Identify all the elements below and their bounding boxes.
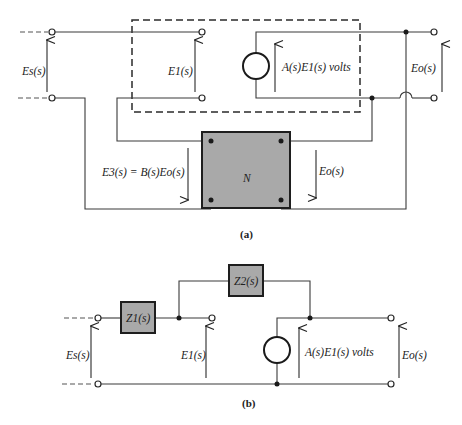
eo-label: Eo(s) — [410, 62, 436, 75]
network-eo-label: Eo(s) — [318, 165, 344, 178]
figure-a-caption: (a) — [240, 228, 253, 241]
figure-b: Es(s) Z1(s) Z2(s) E1(s) A(s)E1(s) volts … — [62, 265, 427, 410]
feedback-voltage-label: E3(s) = B(s)Eo(s) — [101, 166, 185, 179]
terminal-eo-bottom — [431, 95, 437, 101]
network-n-label: N — [242, 172, 252, 184]
terminal-es-top-b — [95, 315, 101, 321]
dependent-source-label: A(s)E1(s) volts — [281, 61, 351, 74]
terminal-eo-bottom-b — [388, 381, 394, 387]
es-label: Es(s) — [21, 65, 46, 78]
junction-dot — [177, 316, 182, 321]
dependent-voltage-source-b — [264, 337, 290, 363]
n-top-right-wire — [281, 98, 372, 141]
junction-dot — [275, 382, 280, 387]
circuit-diagram: Es(s) E1(s) A(s)E1(s) volts Eo(s) E3(s) … — [0, 0, 462, 425]
terminal-e1-b — [209, 315, 215, 321]
e1-label: E1(s) — [167, 65, 193, 78]
terminal-es-bottom-b — [95, 381, 101, 387]
z2-label: Z2(s) — [234, 275, 258, 288]
n-port-dot — [209, 198, 214, 203]
n-bottom-right-wire — [281, 32, 406, 209]
e1-label-b: E1(s) — [180, 349, 206, 362]
network-n-box — [202, 132, 290, 208]
terminal-es-bottom — [49, 95, 55, 101]
wire-z2-to-output — [263, 281, 310, 318]
z1-label: Z1(s) — [126, 312, 150, 325]
terminal-e1-top — [199, 29, 205, 35]
terminal-e1-bottom — [199, 95, 205, 101]
terminal-eo-top — [431, 29, 437, 35]
output-top-wire-b — [277, 318, 388, 337]
figure-b-caption: (b) — [242, 397, 256, 410]
source-bottom-wire — [256, 79, 400, 98]
junction-dot — [370, 96, 375, 101]
terminal-es-top — [49, 29, 55, 35]
source-top-wire — [256, 32, 431, 53]
wire-to-z2 — [179, 281, 229, 318]
n-port-dot — [279, 198, 284, 203]
es-label-b: Es(s) — [65, 349, 90, 362]
terminal-eo-top-b — [388, 315, 394, 321]
junction-dot — [404, 30, 409, 35]
junction-dot — [308, 316, 313, 321]
dependent-voltage-source — [243, 53, 269, 79]
dependent-source-label-b: A(s)E1(s) volts — [304, 346, 374, 359]
n-port-dot — [279, 139, 284, 144]
feedback-input-wire — [117, 98, 211, 141]
figure-a: Es(s) E1(s) A(s)E1(s) volts Eo(s) E3(s) … — [18, 20, 442, 241]
eo-label-b: Eo(s) — [401, 349, 427, 362]
n-port-dot — [209, 139, 214, 144]
